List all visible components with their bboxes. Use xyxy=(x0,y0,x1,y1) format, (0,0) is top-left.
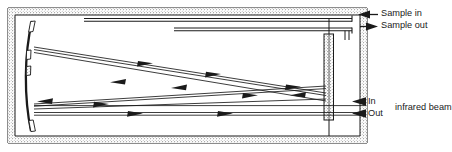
right-flat-mirror xyxy=(324,18,334,136)
gas-cell-diagram: Sample in Sample out In Out infrared bea… xyxy=(0,0,452,152)
sample-in-label: Sample in xyxy=(381,9,422,19)
sample-out-label: Sample out xyxy=(381,21,427,31)
infrared-beam-label: infrared beam xyxy=(395,103,452,113)
beam-out-label: Out xyxy=(368,109,383,119)
beam-in-label: In xyxy=(368,97,376,107)
